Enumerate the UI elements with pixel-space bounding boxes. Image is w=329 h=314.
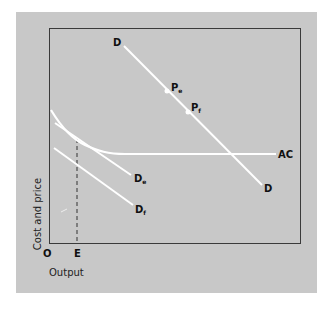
d-start-label: D [113,38,121,48]
d-end-label: D [264,184,272,194]
de-label: De [134,174,146,185]
df-label: Df [135,205,146,216]
origin-label: O [43,249,52,259]
d-line [124,46,262,185]
x-axis-label: Output [49,268,84,278]
pe-point [165,89,170,94]
pf-point [186,110,191,115]
pf-label: Pf [191,103,201,114]
e-label: E [74,249,81,259]
de-line [55,123,131,175]
stray-mark [61,209,67,212]
ac-label: AC [278,150,293,160]
pe-label: Pe [171,83,182,94]
ac-curve [51,110,276,154]
y-axis-label: Cost and price [33,178,43,250]
df-line [54,148,133,205]
